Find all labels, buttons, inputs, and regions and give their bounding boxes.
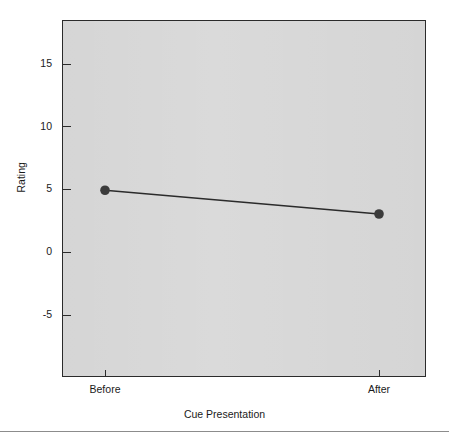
y-tick-label-minus5: -5 (22, 309, 52, 320)
y-tick-label-15: 15 (22, 58, 52, 69)
x-tick-label-after: After (368, 384, 390, 395)
x-tick-label-before: Before (90, 384, 121, 395)
plot-panel (62, 20, 426, 377)
panel-background-texture (63, 21, 425, 376)
x-tick-mark-after (379, 370, 380, 377)
y-tick-label-5: 5 (22, 183, 52, 194)
x-axis-title: Cue Presentation (0, 408, 449, 420)
x-tick-mark-before (105, 370, 106, 377)
y-tick-mark-minus5 (62, 315, 71, 316)
y-tick-mark-10 (62, 126, 71, 127)
chart-figure: 15 10 5 0 -5 Before After Rating Cue Pre… (0, 0, 449, 439)
y-tick-mark-0 (62, 252, 71, 253)
y-tick-label-0: 0 (22, 246, 52, 257)
y-tick-mark-15 (62, 64, 71, 65)
footer-divider (0, 431, 449, 432)
y-tick-mark-5 (62, 189, 71, 190)
y-axis-title: Rating (16, 175, 27, 193)
y-tick-label-10: 10 (22, 121, 52, 132)
